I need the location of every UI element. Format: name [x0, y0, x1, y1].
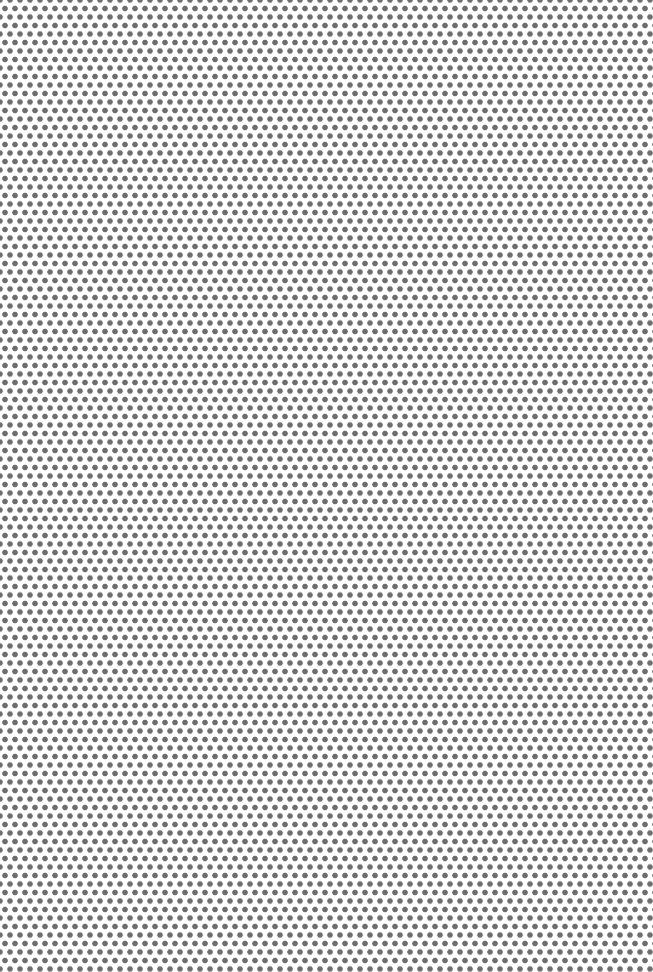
dot-grid-pattern: Uniform staggered dot-grid pattern — [0, 0, 653, 972]
